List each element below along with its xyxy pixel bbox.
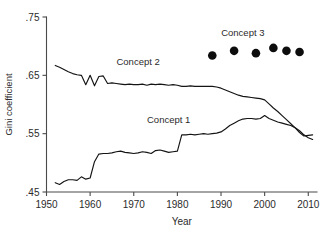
x-axis-ticks: 1950196019701980199020002010 <box>35 192 319 210</box>
data-point-marker <box>295 48 304 57</box>
x-tick-label: 1980 <box>166 199 189 210</box>
data-point-marker <box>282 47 291 56</box>
series-label-concept-2: Concept 2 <box>116 56 159 67</box>
data-point-marker <box>252 49 261 58</box>
y-tick-label: .45 <box>26 187 40 198</box>
gini-coefficient-line-chart: .45.55.65.75 195019601970198019902000201… <box>0 0 330 245</box>
y-axis-ticks: .45.55.65.75 <box>26 12 47 198</box>
x-tick-label: 1970 <box>123 199 146 210</box>
y-tick-label: .55 <box>26 128 40 139</box>
x-tick-label: 2010 <box>297 199 320 210</box>
y-tick-label: .65 <box>26 70 40 81</box>
data-point-marker <box>208 51 217 60</box>
series-line-concept-2 <box>55 65 312 136</box>
data-point-marker <box>230 47 239 56</box>
data-point-marker <box>269 44 278 53</box>
x-axis-title: Year <box>172 216 193 227</box>
y-axis-title: Gini coefficient <box>3 73 14 135</box>
chart-figure: .45.55.65.75 195019601970198019902000201… <box>0 0 330 245</box>
series-line-concept-1 <box>55 116 312 185</box>
axes-group <box>47 17 318 192</box>
y-tick-label: .75 <box>26 12 40 23</box>
series-annotations-group: Concept 1Concept 2Concept 3 <box>116 27 264 126</box>
x-tick-label: 2000 <box>254 199 277 210</box>
series-label-concept-1: Concept 1 <box>147 114 190 125</box>
x-tick-label: 1950 <box>35 199 58 210</box>
series-label-concept-3: Concept 3 <box>221 27 264 38</box>
x-tick-label: 1990 <box>210 199 233 210</box>
x-tick-label: 1960 <box>79 199 102 210</box>
